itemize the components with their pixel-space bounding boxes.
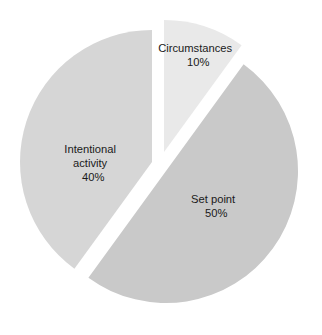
pie-label-set-point-percent: 50% <box>205 207 227 219</box>
pie-label-intentional-activity-name-line2: activity <box>73 157 108 169</box>
pie-label-intentional-activity-name-line1: Intentional <box>64 143 116 155</box>
pie-chart-figure: Circumstances 10% Set point 50% Intentio… <box>0 0 322 335</box>
pie-label-intentional-activity-percent: 40% <box>82 171 104 183</box>
pie-chart-svg: Circumstances 10% Set point 50% Intentio… <box>0 0 322 335</box>
pie-label-circumstances-percent: 10% <box>187 56 209 68</box>
pie-label-set-point-name: Set point <box>191 193 236 205</box>
pie-label-circumstances-name: Circumstances <box>158 42 232 54</box>
